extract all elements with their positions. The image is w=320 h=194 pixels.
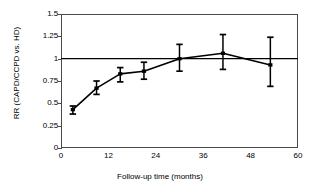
x-axis-tick-label: 24	[141, 151, 171, 160]
data-point-marker	[142, 69, 146, 72]
y-axis-tick-label: 0.75	[24, 77, 58, 85]
y-axis-tick-label: 1.25	[24, 32, 58, 40]
y-axis-tick-mark	[58, 36, 62, 37]
x-axis-tick-label: 12	[93, 151, 123, 160]
data-point-marker	[177, 57, 181, 60]
data-point-marker	[94, 86, 98, 89]
y-axis-tick-mark	[58, 148, 62, 149]
error-bar-group	[70, 35, 274, 115]
chart-figure: 00.250.50.7511.251.5 01224364860 Follow-…	[0, 0, 320, 194]
data-point-marker	[221, 52, 225, 55]
y-axis-tick-mark	[58, 126, 62, 127]
y-axis-tick-label: 0.5	[24, 99, 58, 107]
x-axis-label: Follow-up time (months)	[0, 172, 320, 181]
y-axis-tick-label: 1	[24, 55, 58, 63]
y-axis-tick-mark	[58, 81, 62, 82]
x-axis-tick-label: 36	[188, 151, 218, 160]
x-axis-tick-label: 48	[236, 151, 266, 160]
y-axis-label: RR (CAPD/CCPD vs. HD)	[12, 3, 22, 143]
data-point-marker	[268, 63, 272, 66]
data-point-marker-group	[71, 52, 273, 112]
y-axis-tick-label: 1.5	[24, 10, 58, 18]
y-axis-tick-mark	[58, 59, 62, 60]
data-point-marker	[118, 72, 122, 75]
y-axis-label-holder: RR (CAPD/CCPD vs. HD)	[12, 3, 24, 143]
x-axis-tick-label: 0	[46, 151, 76, 160]
y-axis-tick-label: 0.25	[24, 122, 58, 130]
chart-data-layer	[61, 14, 298, 148]
y-axis-tick-mark	[58, 14, 62, 15]
y-axis-tick-mark	[58, 103, 62, 104]
data-point-marker	[71, 108, 75, 111]
x-axis-ticks: 01224364860	[0, 151, 320, 165]
x-axis-tick-label: 60	[283, 151, 313, 160]
series-line	[73, 53, 271, 109]
